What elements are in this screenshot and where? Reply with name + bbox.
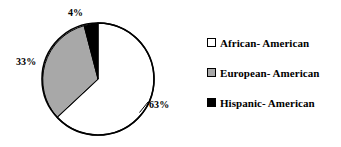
pie-chart-figure: 4% 33% 63% African- American European- A… (0, 0, 341, 147)
legend-label-european-american: European- American (220, 67, 319, 79)
legend-item-african-american[interactable]: African- American (207, 36, 309, 49)
pie-chart-plot-area: 4% 33% 63% (0, 0, 200, 147)
chart-legend: African- American European- American His… (207, 33, 339, 117)
legend-item-european-american[interactable]: European- American (207, 66, 319, 79)
white-square-icon (207, 38, 216, 47)
pie-label-hispanic-american: 4% (68, 7, 83, 18)
legend-label-african-american: African- American (220, 37, 309, 49)
black-square-icon (207, 98, 216, 107)
legend-label-hispanic-american: Hispanic- American (220, 97, 315, 109)
legend-item-hispanic-american[interactable]: Hispanic- American (207, 96, 315, 109)
pie-label-african-american: 63% (149, 99, 169, 110)
pie-label-european-american: 33% (16, 56, 36, 67)
gray-square-icon (207, 68, 216, 77)
pie-chart-svg (0, 0, 200, 147)
